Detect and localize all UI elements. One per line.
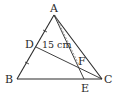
- label-e: E: [81, 82, 89, 95]
- label-b: B: [5, 73, 13, 86]
- measurement-label: 15 cm: [42, 39, 71, 50]
- label-f: F: [78, 55, 86, 68]
- label-d: D: [25, 38, 34, 51]
- segment-dc: [36, 47, 102, 79]
- geometry-figure: A B C D E F 15 cm: [0, 0, 125, 98]
- triangle-diagram: A B C D E F 15 cm: [0, 0, 125, 98]
- label-c: C: [104, 73, 112, 86]
- label-a: A: [49, 2, 59, 15]
